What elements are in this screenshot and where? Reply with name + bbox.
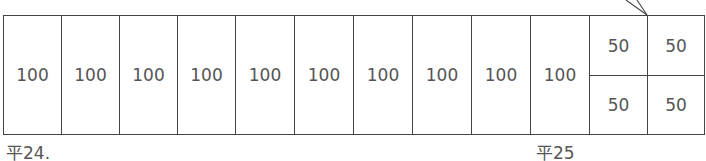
pointer-lines xyxy=(0,0,706,161)
label-end-year: 平25 xyxy=(536,139,575,161)
label-start-year: 平24. xyxy=(6,139,50,161)
